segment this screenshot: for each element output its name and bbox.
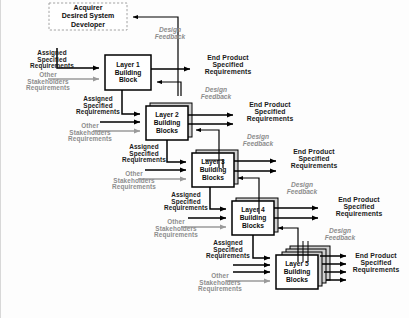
acquirer-box-label: Acquirer Desired System Developer: [49, 3, 127, 30]
layer5-other-stakeholders-label: Other Stakeholders Requirements: [180, 273, 260, 293]
layer1-other-stakeholders-label: Other Stakeholders Requirements: [8, 72, 88, 92]
layer3-design-feedback-label: Design Feedback: [272, 182, 332, 196]
layer3-assigned-requirements-label: Assigned Specified Requirements: [104, 144, 184, 164]
acquirer-design-feedback-label: Design Feedback: [140, 27, 200, 41]
layer3-end-product-label: End Product Specified Requirements: [272, 148, 356, 169]
layer2-design-feedback-label: Design Feedback: [228, 134, 288, 148]
layer3-other-stakeholders-label: Other Stakeholders Requirements: [94, 171, 174, 191]
layer4-end-product-label: End Product Specified Requirements: [316, 196, 402, 217]
layer4-design-feedback-label: Design Feedback: [310, 228, 370, 242]
layer1-box-shape: [105, 55, 151, 90]
layer2-end-product-label: End Product Specified Requirements: [228, 101, 312, 122]
layer4-other-stakeholders-label: Other Stakeholders Requirements: [136, 219, 216, 239]
layer5-end-product-label: End Product Specified Requirements: [344, 252, 408, 273]
layer2-box-shape: [146, 103, 192, 140]
diagram-canvas: Acquirer Desired System Developer Layer …: [0, 0, 409, 318]
layer5-assigned-requirements-label: Assigned Specified Requirements: [188, 240, 268, 260]
layer1-end-product-label: End Product Specified Requirements: [186, 54, 270, 75]
layer4-assigned-requirements-label: Assigned Specified Requirements: [146, 192, 226, 212]
layer2-other-stakeholders-label: Other Stakeholders Requirements: [50, 123, 130, 143]
layer3-box-shape: [192, 150, 238, 187]
layer1-assigned-requirements-label: Assigned Specified Requirements: [12, 50, 92, 70]
layer2-assigned-requirements-label: Assigned Specified Requirements: [58, 96, 138, 116]
layer4-box-shape: [232, 198, 278, 235]
layer1-design-feedback-label: Design Feedback: [186, 87, 246, 101]
left-edge-rule: [0, 0, 1, 318]
